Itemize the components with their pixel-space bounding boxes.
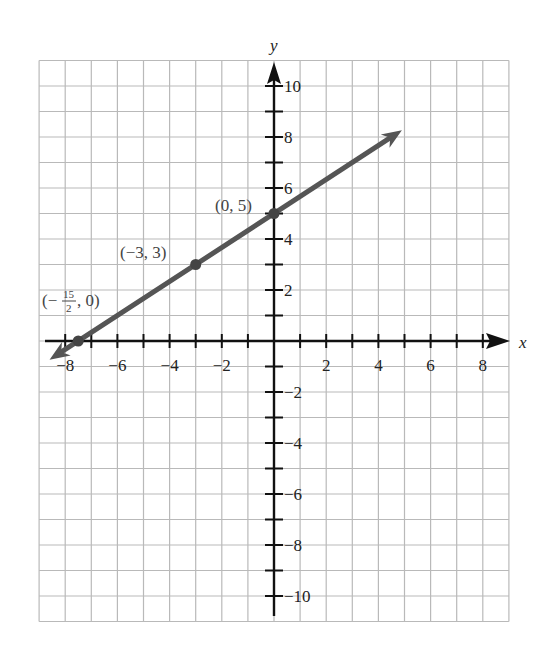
y-tick-label: 8 — [284, 128, 293, 147]
y-tick-label: 10 — [284, 77, 301, 96]
y-tick-label: 2 — [284, 281, 293, 300]
data-point — [190, 259, 201, 270]
x-intercept-label-prefix: (− — [42, 291, 57, 310]
y-tick-label: −8 — [284, 536, 302, 555]
y-axis-label: y — [268, 36, 278, 55]
x-tick-label: −6 — [108, 356, 126, 375]
x-intercept-label-suffix: , 0) — [77, 291, 100, 310]
y-tick-label: −4 — [284, 434, 303, 453]
x-tick-label: 6 — [426, 356, 435, 375]
y-tick-label: −2 — [284, 383, 302, 402]
x-tick-label: 4 — [374, 356, 383, 375]
axes — [45, 62, 510, 616]
data-point — [73, 336, 84, 347]
y-tick-label: −10 — [284, 587, 311, 606]
coordinate-plane: −8−6−4−22468−10−8−6−4−2246810 y x (−3, 3… — [0, 0, 553, 653]
data-point — [269, 208, 280, 219]
y-tick-label: −6 — [284, 485, 302, 504]
line-y-equals-two-thirds-x-plus-five — [63, 139, 389, 351]
x-tick-label: −2 — [213, 356, 231, 375]
point-label-neg3-3: (−3, 3) — [120, 243, 166, 262]
x-tick-label: −8 — [56, 356, 74, 375]
x-intercept-label-denominator: 2 — [66, 302, 72, 314]
x-tick-label: 8 — [479, 356, 488, 375]
x-axis-label: x — [518, 333, 527, 352]
y-tick-label: 4 — [284, 230, 293, 249]
x-tick-label: −4 — [161, 356, 180, 375]
point-label-0-5: (0, 5) — [215, 196, 252, 215]
y-tick-label: 6 — [284, 179, 293, 198]
line-series — [50, 130, 402, 360]
x-intercept-label-numerator: 15 — [63, 288, 75, 300]
x-tick-label: 2 — [322, 356, 331, 375]
